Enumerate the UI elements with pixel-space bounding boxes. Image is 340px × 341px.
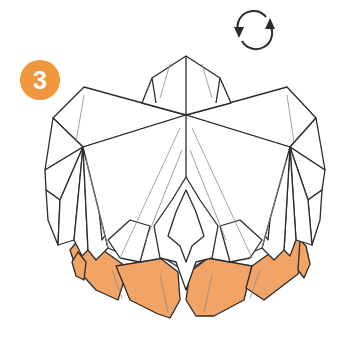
diagram-canvas: 3 [0,0,340,341]
origami-model [0,0,340,341]
top-petal [142,56,231,115]
